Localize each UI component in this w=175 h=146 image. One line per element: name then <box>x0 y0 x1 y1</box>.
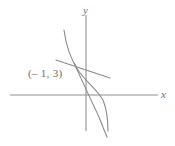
coordinate-plot <box>0 0 175 146</box>
math-figure: x y (– 1, 3) <box>0 0 175 146</box>
tangent-line <box>56 60 110 78</box>
x-axis-label: x <box>161 89 166 100</box>
y-axis-label: y <box>83 5 88 16</box>
secondary-curve-branch <box>74 63 107 137</box>
point-coordinate-label: (– 1, 3) <box>28 68 62 79</box>
